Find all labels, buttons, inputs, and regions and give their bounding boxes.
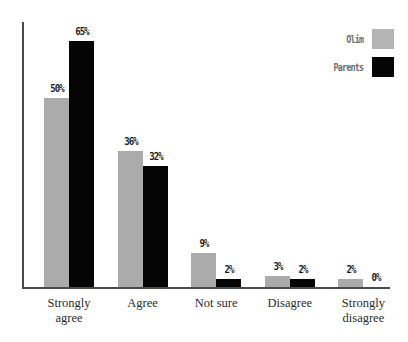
bar-value-label-olim: 50%	[43, 82, 71, 95]
chart-legend: Olim Parents	[282, 27, 394, 83]
bar-parents	[216, 279, 241, 287]
legend-swatch-olim	[372, 29, 394, 49]
bar-olim	[265, 276, 290, 287]
category-label: Stronglydisagree	[320, 296, 406, 326]
bar-value-label-parents: 0%	[362, 271, 390, 284]
bar-value-label-parents: 65%	[68, 25, 96, 38]
bar-value-label-parents: 32%	[142, 150, 170, 163]
bar-value-label-olim: 3%	[264, 260, 292, 273]
legend-label-olim: Olim	[346, 33, 363, 45]
bar-group: 36%32%	[118, 22, 168, 287]
x-axis-category-labels: StronglyagreeAgreeNot sureDisagreeStrong…	[22, 296, 390, 340]
bar-value-label-olim: 36%	[117, 135, 145, 148]
bar-chart: 50%65%36%32%9%2%3%2%2%0% StronglyagreeAg…	[0, 0, 408, 342]
bar-olim	[118, 151, 143, 287]
bar-olim	[44, 98, 69, 287]
legend-entry-parents: Parents	[282, 55, 394, 79]
legend-label-parents: Parents	[333, 61, 363, 73]
bar-olim	[338, 279, 363, 287]
x-axis-line	[22, 287, 390, 289]
bar-value-label-parents: 2%	[215, 263, 243, 276]
bar-olim	[191, 253, 216, 287]
bar-group: 50%65%	[44, 22, 94, 287]
bar-value-label-parents: 2%	[289, 263, 317, 276]
legend-swatch-parents	[372, 57, 394, 77]
legend-entry-olim: Olim	[282, 27, 394, 51]
bar-group: 9%2%	[191, 22, 241, 287]
bar-value-label-olim: 9%	[190, 237, 218, 250]
bar-parents	[69, 41, 94, 287]
bar-parents	[290, 279, 315, 287]
bar-parents	[143, 166, 168, 287]
